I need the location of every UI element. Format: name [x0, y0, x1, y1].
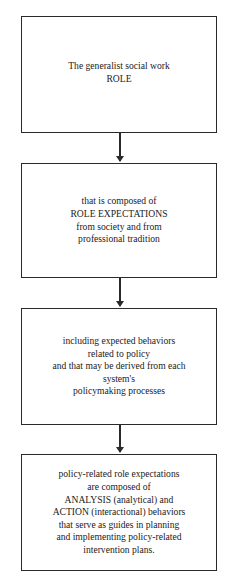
arrow-down-3 — [119, 425, 121, 452]
box-policy-behaviors-text: including expected behaviors related to … — [52, 335, 185, 398]
box-generalist-role-text: The generalist social work ROLE — [68, 60, 170, 89]
box-generalist-role: The generalist social work ROLE — [21, 16, 217, 133]
arrow-down-2 — [119, 278, 121, 306]
box-role-expectations: that is composed of ROLE EXPECTATIONS fr… — [21, 163, 217, 278]
arrow-down-1 — [119, 133, 121, 161]
box-policy-behaviors: including expected behaviors related to … — [21, 308, 217, 425]
box-analysis-action: policy-related role expectations are com… — [21, 454, 217, 571]
box-analysis-action-text: policy-related role expectations are com… — [53, 468, 186, 556]
box-role-expectations-text: that is composed of ROLE EXPECTATIONS fr… — [70, 195, 167, 245]
